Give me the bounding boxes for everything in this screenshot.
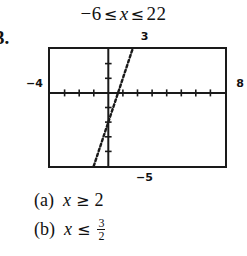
top-inequality: −6≤x≤22	[0, 0, 247, 28]
choice-a-tag: (a)	[34, 186, 54, 215]
y-axis-group	[105, 49, 112, 166]
relation-right: ≤	[129, 5, 147, 24]
axis-label-right: 8	[236, 78, 244, 90]
variable-x: x	[120, 3, 129, 24]
choice-b-tag: (b)	[34, 215, 55, 244]
x-axis-group	[50, 89, 225, 96]
choice-a[interactable]: (a)x≥2	[34, 186, 234, 215]
plotted-line	[94, 49, 133, 166]
problem-number: 3.	[0, 28, 9, 48]
graph-screen	[48, 47, 227, 168]
choice-b-relation: ≤	[75, 220, 92, 239]
fraction-denominator: 2	[97, 230, 105, 242]
choice-b-fraction: 32	[97, 217, 105, 243]
relation-left: ≤	[102, 5, 120, 24]
answer-choices: (a)x≥2 (b)x≤32	[34, 186, 234, 244]
lower-bound: −6	[81, 3, 102, 24]
axis-label-bottom: −5	[53, 171, 236, 185]
choice-a-relation: ≥	[74, 191, 91, 210]
axis-label-top: 3	[53, 30, 236, 44]
fraction-numerator: 3	[97, 217, 105, 230]
graph-svg	[50, 49, 225, 166]
calculator-graph: 3 −4 8 −5	[46, 30, 229, 185]
choice-b[interactable]: (b)x≤32	[34, 215, 234, 244]
choice-a-variable: x	[54, 190, 74, 210]
choice-a-value: 2	[91, 190, 103, 210]
choice-b-variable: x	[55, 219, 75, 239]
upper-bound: 22	[146, 3, 166, 24]
axis-label-left: −4	[26, 78, 43, 90]
